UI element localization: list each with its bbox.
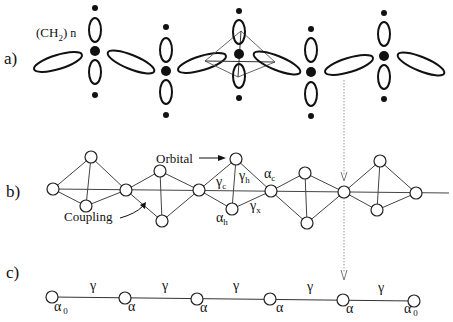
chain-line [52, 297, 414, 301]
orbital-node [230, 153, 242, 165]
sp3-orbital-ellipse [105, 46, 157, 78]
orbital-node [120, 184, 132, 196]
orbital-label: Orbital [156, 151, 193, 166]
orbital-node [85, 151, 97, 163]
bond-label: γ [232, 278, 239, 293]
bond-label: γ [377, 280, 384, 295]
orbital-node [374, 155, 386, 167]
gamma-x-label: γx [249, 198, 261, 215]
panel-b: b) [6, 151, 449, 229]
panel-a-label: a) [4, 49, 17, 68]
sp3-orbital-ellipse [251, 47, 303, 79]
sp3-orbital-ellipse [395, 48, 447, 80]
site-label-alpha: α [276, 300, 284, 315]
panel-c-label: c) [6, 263, 19, 282]
carbon-atom-1 [89, 5, 101, 98]
bond-label: γ [161, 278, 168, 293]
panel-a: a) (CH2)n [4, 5, 447, 119]
orbital-node [410, 187, 422, 199]
carbon-atom-5 [378, 10, 390, 102]
orbital-node [301, 217, 313, 229]
sp3-orbital-ellipse [176, 49, 228, 77]
panel-b-label: b) [6, 182, 20, 201]
orbital-node [299, 167, 311, 179]
diagram-canvas: a) (CH2)n [0, 0, 453, 322]
gamma-c-label: γc [215, 174, 226, 191]
chain-site [264, 293, 276, 305]
carbon-atom-3 [205, 8, 275, 101]
orbital-node [156, 215, 168, 227]
sp3-orbital-ellipse [32, 48, 84, 76]
site-label-alpha: α [346, 301, 354, 316]
site-label-alpha: α [200, 300, 208, 315]
orbital-node [226, 203, 238, 215]
orbital-node [338, 186, 350, 198]
orbital-node [154, 165, 166, 177]
orbital-node [193, 184, 205, 196]
alpha-c-label: αc [264, 166, 275, 183]
site-label-alpha: α [128, 299, 136, 314]
coupling-label: Coupling [64, 209, 113, 224]
site-label-alpha0: α0 [54, 299, 68, 316]
orbital-node [47, 183, 59, 195]
carbon-atom-2 [160, 24, 172, 118]
carbon-atom-4 [305, 26, 317, 119]
ch2-group-label: (CH2)n [36, 25, 76, 43]
orbital-arrow-icon [199, 155, 226, 161]
bond-label: γ [89, 278, 96, 293]
panel-c: c) γ γ γ γ γ α0 α α α α α0 [6, 263, 420, 318]
dotted-mapping-line [341, 80, 347, 280]
bond-label: γ [306, 279, 313, 294]
orbital-node [265, 185, 277, 197]
sp3-orbital-ellipse [323, 51, 375, 79]
coupling-arrow-icon [120, 202, 146, 218]
orbital-node [371, 204, 383, 216]
